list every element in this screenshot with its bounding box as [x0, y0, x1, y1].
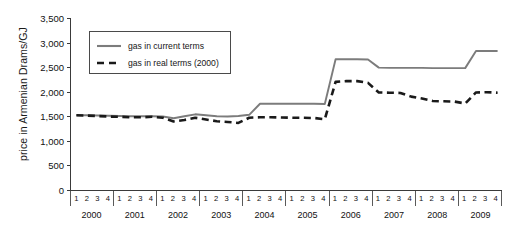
- x-axis-quarter-label: 2: [469, 191, 480, 206]
- x-axis-year-group: 1234: [70, 191, 114, 206]
- y-axis-tick-mark: [67, 92, 71, 93]
- x-axis-year-label: 2005: [286, 210, 329, 220]
- x-axis-year-group: 1234: [243, 191, 286, 206]
- x-axis-quarter-label: 4: [275, 191, 286, 206]
- x-axis-quarter-label: 2: [297, 191, 308, 206]
- x-axis-quarter-label: 1: [114, 191, 125, 206]
- x-axis-quarter-label: 3: [92, 191, 103, 206]
- x-axis-quarter-label: 3: [351, 191, 362, 206]
- y-axis-tick-mark: [67, 165, 71, 166]
- x-axis-quarter-label: 2: [340, 191, 351, 206]
- x-axis-year-label: 2001: [113, 210, 156, 220]
- y-axis-tick-label: 1,500: [40, 111, 64, 122]
- y-axis-tick-label: 3,500: [40, 13, 64, 24]
- x-axis-quarter-label: 3: [437, 191, 448, 206]
- legend-label-real-terms: gas in real terms (2000): [128, 58, 219, 68]
- x-axis-quarter-label: 4: [361, 191, 372, 206]
- x-axis-quarter-label: 2: [426, 191, 437, 206]
- x-axis-quarter-label: 3: [394, 191, 405, 206]
- x-axis-quarter-label: 1: [330, 191, 341, 206]
- x-axis-quarter-label: 3: [480, 191, 491, 206]
- legend-swatch-solid-line-icon: [96, 41, 122, 51]
- x-axis-year-label: 2002: [156, 210, 199, 220]
- legend-swatch-dashed-line-icon: [96, 58, 122, 68]
- y-axis-tick-mark: [67, 141, 71, 142]
- line-chart: price in Armenian Drams/GJ 3,5003,0002,5…: [0, 0, 509, 234]
- x-axis-quarter-label: 1: [200, 191, 211, 206]
- x-axis-quarter-label: 1: [373, 191, 384, 206]
- x-axis-quarter-label: 2: [82, 191, 93, 206]
- y-axis-tick-mark: [67, 18, 71, 19]
- x-axis-quarter-label: 2: [211, 191, 222, 206]
- x-axis-year-row: 2000200120022003200420052006200720082009: [70, 210, 502, 220]
- y-axis-tick-label: 0: [59, 185, 64, 196]
- x-axis-quarter-label: 2: [125, 191, 136, 206]
- x-axis-year-group: 1234: [286, 191, 329, 206]
- legend-item-current-terms: gas in current terms: [96, 37, 224, 54]
- y-axis-tick-label: 1,000: [40, 135, 64, 146]
- x-axis-quarter-label: 4: [146, 191, 157, 206]
- x-axis-year-group: 1234: [157, 191, 200, 206]
- y-axis-tick-label: 3,000: [40, 37, 64, 48]
- x-axis-quarter-label: 4: [189, 191, 200, 206]
- x-axis-year-label: 2006: [329, 210, 372, 220]
- y-axis-tick-mark: [67, 116, 71, 117]
- x-axis-year-label: 2000: [70, 210, 113, 220]
- x-axis-year-group: 1234: [416, 191, 459, 206]
- x-axis-year-label: 2009: [459, 210, 502, 220]
- x-axis-quarter-label: 1: [243, 191, 254, 206]
- x-axis-quarter-label: 1: [157, 191, 168, 206]
- y-axis-tick-labels: 3,5003,0002,5002,0001,5001,0005000: [24, 12, 64, 192]
- x-axis-quarter-label: 2: [168, 191, 179, 206]
- x-axis-quarter-label: 4: [318, 191, 329, 206]
- x-axis-quarter-label: 4: [490, 191, 501, 206]
- x-axis-quarter-label: 3: [308, 191, 319, 206]
- x-axis-year-group: 1234: [459, 191, 502, 206]
- legend-label-current-terms: gas in current terms: [128, 41, 204, 51]
- x-axis-quarter-row: 1234123412341234123412341234123412341234: [70, 190, 502, 206]
- x-axis-year-group: 1234: [373, 191, 416, 206]
- y-axis-tick-label: 2,500: [40, 62, 64, 73]
- x-axis-quarter-label: 1: [459, 191, 470, 206]
- x-axis-quarter-label: 1: [286, 191, 297, 206]
- y-axis-tick-label: 2,000: [40, 86, 64, 97]
- x-axis-year-group: 1234: [200, 191, 243, 206]
- x-axis-year-label: 2004: [243, 210, 286, 220]
- x-axis-quarter-label: 3: [264, 191, 275, 206]
- x-axis-quarter-label: 4: [103, 191, 114, 206]
- x-axis-quarter-label: 2: [254, 191, 265, 206]
- series-line: [76, 81, 497, 123]
- x-axis-quarter-label: 4: [447, 191, 458, 206]
- x-axis-year-label: 2008: [416, 210, 459, 220]
- y-axis-tick-mark: [67, 43, 71, 44]
- chart-legend: gas in current terms gas in real terms (…: [89, 31, 231, 74]
- x-axis-quarter-label: 4: [232, 191, 243, 206]
- x-axis-quarter-label: 3: [135, 191, 146, 206]
- x-axis-year-label: 2003: [200, 210, 243, 220]
- x-axis-quarter-label: 3: [221, 191, 232, 206]
- x-axis-quarter-label: 4: [404, 191, 415, 206]
- x-axis-year-label: 2007: [372, 210, 415, 220]
- y-axis-tick-label: 500: [48, 160, 64, 171]
- x-axis-quarter-label: 3: [178, 191, 189, 206]
- x-axis-quarter-label: 1: [416, 191, 427, 206]
- x-axis-year-group: 1234: [114, 191, 157, 206]
- x-axis-year-group: 1234: [330, 191, 373, 206]
- x-axis: 1234123412341234123412341234123412341234…: [70, 190, 502, 220]
- y-axis-tick-mark: [67, 67, 71, 68]
- x-axis-quarter-label: 2: [383, 191, 394, 206]
- legend-item-real-terms: gas in real terms (2000): [96, 54, 224, 71]
- x-axis-quarter-label: 1: [71, 191, 82, 206]
